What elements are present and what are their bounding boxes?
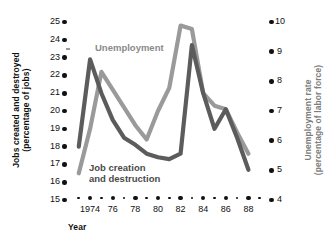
- plot-area: [0, 0, 334, 242]
- series-label-job-creation-destruction: Job creation and destruction: [89, 162, 160, 184]
- chart-figure: Jobs created and destroyed (percentage o…: [0, 0, 334, 242]
- series-label-unemployment: Unemployment: [95, 42, 164, 53]
